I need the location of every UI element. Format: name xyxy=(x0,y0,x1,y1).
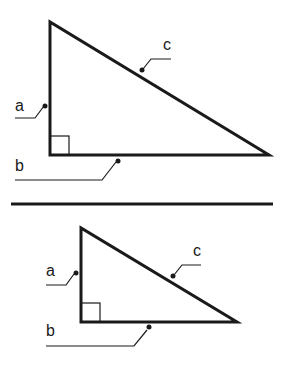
side-b-callout: b xyxy=(46,322,152,346)
label-b: b xyxy=(15,157,24,174)
small-right-triangle: a b c xyxy=(46,228,237,346)
label-b: b xyxy=(46,322,55,339)
side-a-callout: a xyxy=(46,262,79,285)
leader-dot xyxy=(74,271,79,276)
label-c: c xyxy=(163,36,171,53)
right-angle-marker xyxy=(81,303,100,322)
label-c: c xyxy=(193,242,201,259)
leader-dot xyxy=(171,274,176,279)
leader-line xyxy=(46,330,147,346)
side-a-callout: a xyxy=(15,97,48,118)
side-b-callout: b xyxy=(15,157,121,180)
diagram-canvas: a b c a b xyxy=(0,0,285,367)
side-c-callout: c xyxy=(171,242,202,279)
leader-dot xyxy=(140,68,145,73)
triangle-outline xyxy=(50,22,269,155)
large-right-triangle: a b c xyxy=(15,22,269,180)
side-c-callout: c xyxy=(140,36,172,73)
leader-dot xyxy=(116,159,121,164)
triangle-outline xyxy=(81,228,237,322)
label-a: a xyxy=(46,262,55,279)
right-angle-marker xyxy=(50,136,69,155)
leader-line xyxy=(174,265,201,275)
leader-line xyxy=(15,162,116,180)
label-a: a xyxy=(15,97,24,114)
leader-dot xyxy=(147,325,152,330)
leader-line xyxy=(143,59,171,69)
leader-dot xyxy=(43,104,48,109)
